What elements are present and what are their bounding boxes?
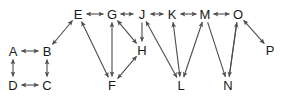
graph-edge-h-g	[117, 21, 136, 44]
graph-edge-n-o	[229, 22, 237, 76]
graph-node-k: K	[168, 8, 177, 21]
graph-node-d: D	[8, 79, 17, 92]
graph-edge-l-m	[184, 22, 203, 77]
graph-edge-b-e	[52, 21, 72, 45]
graph-edge-o-p	[244, 20, 265, 43]
graph-diagram: ABCDEFGHJKLMNOP	[0, 0, 285, 96]
graph-node-b: B	[43, 45, 52, 58]
graph-node-p: P	[266, 44, 275, 57]
graph-edge-e-f	[82, 22, 109, 78]
graph-node-j: J	[139, 8, 146, 21]
graph-node-m: M	[200, 8, 211, 21]
graph-node-l: L	[177, 79, 184, 92]
graph-node-h: H	[137, 44, 146, 57]
graph-node-f: F	[108, 79, 116, 92]
graph-node-a: A	[9, 45, 18, 58]
graph-node-c: C	[42, 79, 51, 92]
graph-edge-h-f	[118, 56, 137, 78]
graph-node-e: E	[74, 8, 83, 21]
graph-edge-k-l	[173, 22, 180, 76]
graph-node-o: O	[233, 8, 243, 21]
graph-node-g: G	[107, 8, 117, 21]
graph-node-n: N	[223, 79, 232, 92]
graph-edge-m-n	[208, 22, 226, 77]
graph-edge-j-l	[146, 21, 177, 77]
